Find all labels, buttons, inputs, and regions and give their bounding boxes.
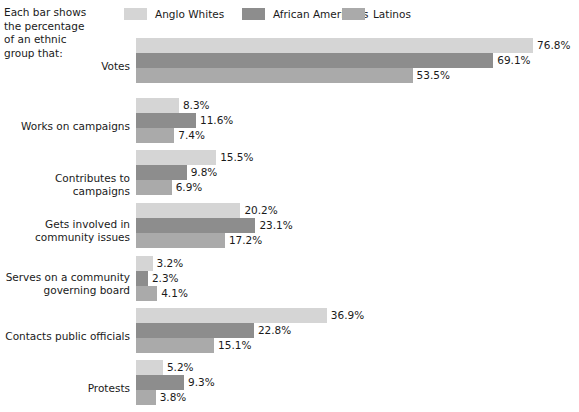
bar-value-label: 3.2%: [157, 256, 184, 271]
category-label: Votes: [4, 60, 130, 73]
bar-value-label: 36.9%: [331, 308, 364, 323]
bar[interactable]: [136, 218, 255, 233]
bar[interactable]: [136, 68, 413, 83]
bar-group: Serves on a community governing board3.2…: [0, 256, 579, 301]
bar-row: 9.8%: [136, 165, 579, 180]
bar-value-label: 9.8%: [191, 165, 218, 180]
bar-value-label: 3.8%: [160, 390, 187, 405]
bar[interactable]: [136, 150, 216, 165]
bar-value-label: 15.5%: [220, 150, 253, 165]
bar[interactable]: [136, 323, 254, 338]
bar-value-label: 2.3%: [152, 271, 179, 286]
bar-group: Contributes to campaigns15.5%9.8%6.9%: [0, 150, 579, 195]
bar-value-label: 7.4%: [178, 128, 205, 143]
category-label: Serves on a community governing board: [4, 271, 130, 297]
bar-chart: Each bar shows the percentage of an ethn…: [0, 0, 579, 412]
bar-value-label: 15.1%: [218, 338, 251, 353]
category-label: Contacts public officials: [4, 330, 130, 343]
bar-row: 5.2%: [136, 360, 579, 375]
bar-row: 53.5%: [136, 68, 579, 83]
bar-value-label: 23.1%: [259, 218, 292, 233]
bar[interactable]: [136, 271, 148, 286]
bar-row: 4.1%: [136, 286, 579, 301]
plot-area: Votes76.8%69.1%53.5%Works on campaigns8.…: [0, 0, 579, 412]
bar[interactable]: [136, 360, 163, 375]
bar[interactable]: [136, 165, 187, 180]
bar-value-label: 22.8%: [258, 323, 291, 338]
bar[interactable]: [136, 256, 153, 271]
bar[interactable]: [136, 308, 327, 323]
bar-value-label: 4.1%: [161, 286, 188, 301]
bar-value-label: 20.2%: [244, 203, 277, 218]
bar-row: 36.9%: [136, 308, 579, 323]
bar-group: Gets involved in community issues20.2%23…: [0, 203, 579, 248]
bar[interactable]: [136, 128, 174, 143]
category-label: Works on campaigns: [4, 120, 130, 133]
bar-row: 69.1%: [136, 53, 579, 68]
bar[interactable]: [136, 53, 493, 68]
bar[interactable]: [136, 338, 214, 353]
bar-row: 8.3%: [136, 98, 579, 113]
bar-row: 3.2%: [136, 256, 579, 271]
bar-row: 11.6%: [136, 113, 579, 128]
bar[interactable]: [136, 286, 157, 301]
bar[interactable]: [136, 375, 184, 390]
category-label: Gets involved in community issues: [4, 218, 130, 244]
category-label: Contributes to campaigns: [4, 172, 130, 198]
bar-row: 2.3%: [136, 271, 579, 286]
bar[interactable]: [136, 113, 196, 128]
bar-row: 7.4%: [136, 128, 579, 143]
category-label: Protests: [4, 382, 130, 395]
bar-row: 17.2%: [136, 233, 579, 248]
bar-row: 22.8%: [136, 323, 579, 338]
bar-value-label: 76.8%: [537, 38, 570, 53]
bar[interactable]: [136, 390, 156, 405]
bar-row: 15.1%: [136, 338, 579, 353]
bar-row: 20.2%: [136, 203, 579, 218]
bar-row: 76.8%: [136, 38, 579, 53]
bar[interactable]: [136, 180, 172, 195]
bar-value-label: 9.3%: [188, 375, 215, 390]
bar-value-label: 6.9%: [176, 180, 203, 195]
bar-value-label: 5.2%: [167, 360, 194, 375]
bar-row: 6.9%: [136, 180, 579, 195]
bar-value-label: 17.2%: [229, 233, 262, 248]
bar-value-label: 53.5%: [417, 68, 450, 83]
bar-group: Works on campaigns8.3%11.6%7.4%: [0, 98, 579, 143]
bar[interactable]: [136, 98, 179, 113]
bar-row: 3.8%: [136, 390, 579, 405]
bar-group: Protests5.2%9.3%3.8%: [0, 360, 579, 405]
bar-value-label: 8.3%: [183, 98, 210, 113]
bar-value-label: 11.6%: [200, 113, 233, 128]
bar-group: Votes76.8%69.1%53.5%: [0, 38, 579, 83]
bar[interactable]: [136, 233, 225, 248]
bar-row: 9.3%: [136, 375, 579, 390]
bar-row: 15.5%: [136, 150, 579, 165]
bar-group: Contacts public officials36.9%22.8%15.1%: [0, 308, 579, 353]
bar[interactable]: [136, 38, 533, 53]
bar-row: 23.1%: [136, 218, 579, 233]
bar-value-label: 69.1%: [497, 53, 530, 68]
bar[interactable]: [136, 203, 240, 218]
